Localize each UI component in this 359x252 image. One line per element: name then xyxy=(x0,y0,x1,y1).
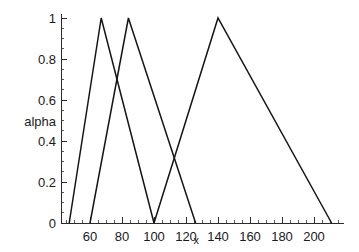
y-tick-label-1: 1 xyxy=(49,12,56,25)
x-tick-label-80: 80 xyxy=(115,230,129,243)
x-tick-label-200: 200 xyxy=(303,230,325,243)
series-membership-3 xyxy=(154,18,332,223)
y-tick-label-0: 0 xyxy=(49,217,56,230)
x-tick-label-160: 160 xyxy=(239,230,261,243)
x-axis-title: x xyxy=(193,235,199,246)
x-tick-label-140: 140 xyxy=(207,230,229,243)
y-tick-label-0-4: 0.4 xyxy=(38,135,56,148)
series-lines xyxy=(69,18,331,223)
x-tick-label-180: 180 xyxy=(271,230,293,243)
chart-container: 6080100120140160180200 00.20.40.60.81 al… xyxy=(0,0,359,252)
y-tick-label-0-6: 0.6 xyxy=(38,94,56,107)
series-membership-1 xyxy=(69,18,154,223)
series-membership-2 xyxy=(90,18,196,223)
x-tick-label-100: 100 xyxy=(143,230,165,243)
y-tick-label-0-8: 0.8 xyxy=(38,53,56,66)
y-tick-label-0-2: 0.2 xyxy=(38,176,56,189)
x-tick-label-60: 60 xyxy=(83,230,97,243)
y-axis-title: alpha xyxy=(24,114,56,127)
